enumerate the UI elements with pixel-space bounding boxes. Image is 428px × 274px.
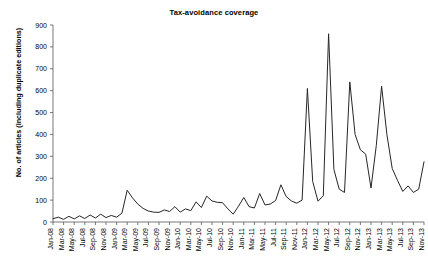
x-tick-label: May-09 xyxy=(132,228,140,251)
y-tick-label: 0 xyxy=(43,219,47,226)
x-tick-label: Jan-13 xyxy=(365,228,372,250)
y-axis-ticks: 0100200300400500600700800900 xyxy=(35,22,53,226)
x-tick-label: May-12 xyxy=(323,228,331,251)
x-tick-label: Sep-10 xyxy=(217,228,225,251)
y-tick-label: 300 xyxy=(35,153,47,160)
y-tick-label: 500 xyxy=(35,109,47,116)
x-tick-label: Jan-11 xyxy=(238,228,245,249)
y-tick-label: 100 xyxy=(35,197,47,204)
y-tick-label: 600 xyxy=(35,87,47,94)
x-tick-label: Mar-10 xyxy=(185,228,192,250)
x-tick-label: Nov-08 xyxy=(100,228,107,251)
x-tick-label: May-10 xyxy=(195,228,203,251)
x-tick-label: Mar-12 xyxy=(312,228,319,250)
x-tick-label: Nov-09 xyxy=(164,228,171,251)
x-tick-label: Jul-10 xyxy=(206,228,213,247)
x-tick-label: Nov-12 xyxy=(354,228,361,251)
x-tick-label: Sep-12 xyxy=(344,228,352,251)
x-tick-label: May-13 xyxy=(386,228,394,251)
x-tick-label: Jan-10 xyxy=(174,228,181,250)
plot-area: 0100200300400500600700800900 Jan-08Mar-0… xyxy=(0,0,428,274)
x-tick-label: Sep-09 xyxy=(153,228,161,251)
x-tick-label: Jul-08 xyxy=(79,228,86,247)
x-tick-label: Nov-10 xyxy=(227,228,234,251)
x-tick-label: Jan-08 xyxy=(47,228,54,250)
x-tick-label: Sep-13 xyxy=(407,228,415,251)
x-tick-label: Jul-12 xyxy=(333,228,340,247)
y-tick-label: 200 xyxy=(35,175,47,182)
y-tick-label: 700 xyxy=(35,65,47,72)
y-tick-label: 800 xyxy=(35,43,47,50)
x-tick-label: Mar-13 xyxy=(376,228,383,250)
x-tick-label: May-11 xyxy=(259,228,267,251)
x-tick-label: Jul-09 xyxy=(142,228,149,247)
y-tick-label: 900 xyxy=(35,22,47,29)
x-tick-label: Jul-13 xyxy=(397,228,404,247)
x-tick-label: Nov-13 xyxy=(418,228,425,251)
x-tick-label: Jan-09 xyxy=(111,228,118,250)
x-tick-label: May-08 xyxy=(68,228,76,251)
chart-container: Tax-avoidance coverage No. of articles (… xyxy=(0,0,428,274)
y-tick-label: 400 xyxy=(35,131,47,138)
data-series-line xyxy=(53,34,424,220)
x-tick-label: Sep-08 xyxy=(89,228,97,251)
x-tick-label: Jul-11 xyxy=(270,228,277,247)
x-tick-label: Mar-11 xyxy=(248,228,255,250)
x-tick-label: Mar-09 xyxy=(121,228,128,250)
x-tick-label: Mar-08 xyxy=(58,228,65,250)
x-tick-label: Sep-11 xyxy=(280,228,288,250)
x-tick-label: Jan-12 xyxy=(301,228,308,250)
x-tick-label: Nov-11 xyxy=(291,228,298,250)
x-axis-ticks: Jan-08Mar-08May-08Jul-08Sep-08Nov-08Jan-… xyxy=(47,222,425,251)
